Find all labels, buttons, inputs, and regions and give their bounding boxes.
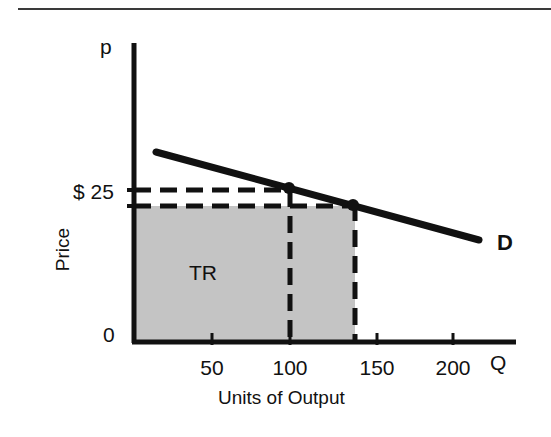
total-revenue-label: TR	[189, 262, 217, 283]
x-tick-label-150: 150	[347, 356, 407, 380]
total-revenue-shaded-region	[136, 206, 355, 342]
x-axis-title: Units of Output	[218, 388, 345, 407]
origin-label: 0	[103, 324, 115, 345]
x-tick-label-100: 100	[260, 356, 320, 380]
y-axis-title: Price	[53, 220, 72, 280]
data-point-b	[347, 199, 359, 211]
y-axis-symbol-label: p	[100, 36, 112, 57]
data-point-a	[283, 182, 295, 194]
x-tick-label-200: 200	[423, 356, 483, 380]
price-tick-label: $ 25	[73, 181, 114, 202]
demand-curve-label: D	[497, 232, 513, 254]
demand-curve-figure: p Q D $ 25 0 TR Price Units of Output 50…	[0, 0, 551, 437]
x-tick-label-50: 50	[182, 356, 242, 380]
x-axis-symbol-label: Q	[490, 352, 506, 373]
